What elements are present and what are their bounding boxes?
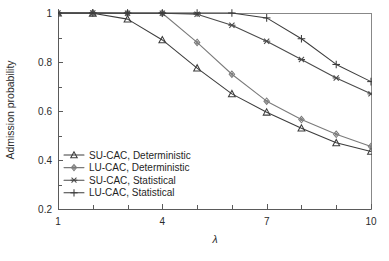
y-tick-label: 0.6 <box>38 106 52 117</box>
x-tick-label: 10 <box>365 216 377 227</box>
x-tick-label: 1 <box>55 216 61 227</box>
y-tick-label: 0.8 <box>38 57 52 68</box>
line-chart: 147100.20.40.60.81 Admission probability… <box>0 0 389 261</box>
figure-container: 147100.20.40.60.81 Admission probability… <box>0 0 389 261</box>
x-tick-label: 4 <box>160 216 166 227</box>
x-axis-title: λ <box>211 233 217 245</box>
y-axis-title: Admission probability <box>4 60 16 160</box>
legend-label: SU-CAC, Statistical <box>89 175 176 186</box>
y-tick-label: 1 <box>46 8 52 19</box>
y-tick-label: 0.2 <box>38 204 52 215</box>
legend-label: LU-CAC, Deterministic <box>89 162 190 173</box>
y-tick-label: 0.4 <box>38 155 52 166</box>
legend-label: LU-CAC, Statistical <box>89 187 175 198</box>
x-tick-label: 7 <box>264 216 270 227</box>
legend-label: SU-CAC, Deterministic <box>89 150 191 161</box>
